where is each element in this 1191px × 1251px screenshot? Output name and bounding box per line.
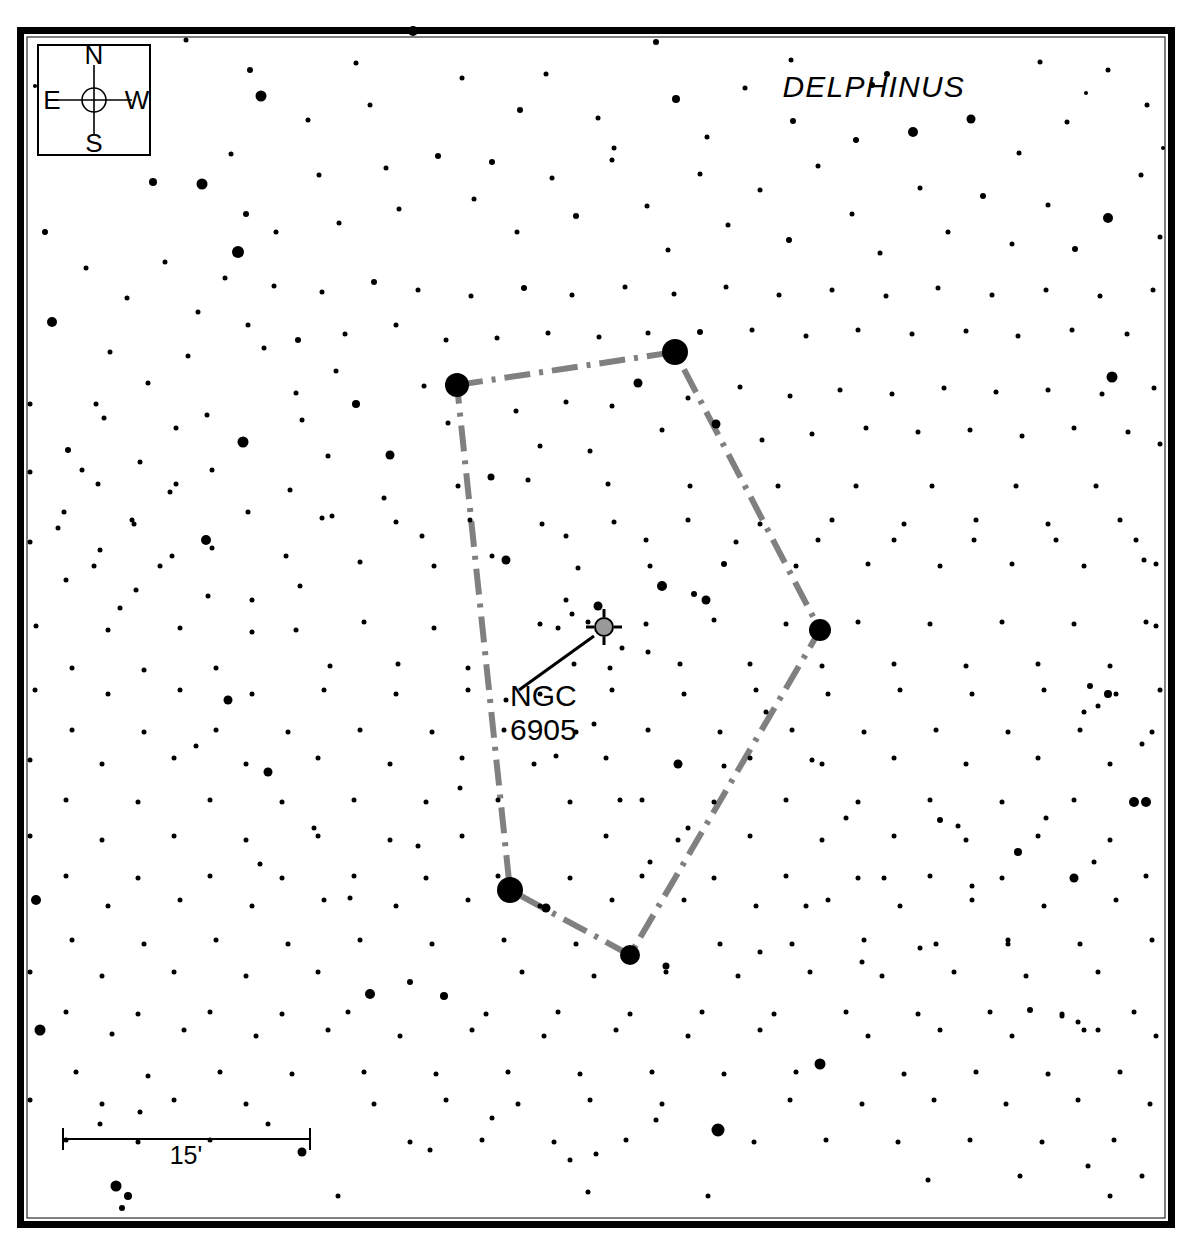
star (588, 449, 593, 454)
star (1000, 800, 1005, 805)
star (1154, 1034, 1159, 1039)
star (946, 230, 951, 235)
star (396, 662, 401, 667)
star (62, 510, 67, 515)
star (1046, 522, 1051, 527)
star (244, 974, 249, 979)
star (815, 1059, 826, 1070)
star (1040, 1140, 1045, 1145)
star (918, 946, 923, 951)
star (784, 874, 789, 879)
star (968, 1138, 973, 1143)
star (540, 522, 545, 527)
star (320, 516, 325, 521)
star (343, 332, 348, 337)
star (33, 84, 37, 88)
star (163, 260, 168, 265)
star (56, 526, 61, 531)
star (382, 496, 387, 501)
star (964, 664, 969, 669)
star (1161, 146, 1165, 150)
planetary-nebula-icon[interactable] (595, 618, 613, 636)
star (754, 688, 759, 693)
star (158, 564, 163, 569)
star (970, 692, 975, 697)
star (1004, 1102, 1009, 1107)
star (748, 834, 753, 839)
star (142, 942, 147, 947)
star (178, 688, 183, 693)
star (610, 688, 615, 693)
star (1148, 1102, 1153, 1107)
star (1098, 294, 1103, 299)
star (506, 1070, 511, 1075)
star (258, 862, 263, 867)
star (686, 1034, 691, 1039)
star (964, 838, 969, 843)
star (686, 518, 691, 523)
star (712, 618, 717, 623)
star (1092, 860, 1097, 865)
star (660, 428, 665, 433)
star (830, 518, 835, 523)
star (952, 970, 957, 975)
star (588, 1098, 593, 1103)
star (623, 285, 628, 290)
star (610, 404, 615, 409)
star (1018, 1174, 1023, 1179)
star (700, 1010, 705, 1015)
star (149, 178, 157, 186)
star (612, 520, 617, 525)
star (866, 562, 871, 567)
star (168, 490, 173, 495)
star (28, 970, 33, 975)
star (942, 386, 947, 391)
star (1078, 942, 1083, 947)
star (1072, 246, 1078, 252)
star (466, 688, 471, 693)
star (1108, 762, 1113, 767)
star (142, 730, 147, 735)
star (937, 817, 943, 823)
star (596, 116, 601, 121)
star (980, 193, 986, 199)
star (446, 421, 451, 426)
star (294, 628, 299, 633)
star (864, 426, 869, 431)
star (645, 204, 650, 209)
star (918, 186, 923, 191)
star (789, 58, 794, 63)
star (1118, 518, 1123, 523)
star (1086, 1164, 1091, 1169)
star (646, 728, 651, 733)
star (106, 692, 111, 697)
star (472, 197, 477, 202)
star (712, 420, 721, 429)
star (1126, 430, 1131, 435)
star (124, 1192, 132, 1200)
star (515, 230, 520, 235)
star (1072, 798, 1077, 803)
star (1140, 742, 1145, 747)
star (604, 756, 609, 761)
star (764, 710, 769, 715)
star (926, 1178, 931, 1183)
star (244, 762, 249, 767)
star (502, 556, 511, 565)
star (184, 38, 189, 43)
star (974, 518, 979, 523)
star (1014, 848, 1022, 856)
star (610, 158, 615, 163)
star (570, 612, 575, 617)
star (243, 211, 249, 217)
star (136, 1012, 141, 1017)
star (994, 390, 999, 395)
star (612, 146, 617, 151)
star (644, 538, 649, 543)
star (1139, 173, 1144, 178)
star (676, 838, 681, 843)
star (266, 1122, 271, 1127)
constellation-name-label: DELPHINUS (782, 70, 965, 103)
star (394, 692, 399, 697)
star (274, 230, 279, 235)
